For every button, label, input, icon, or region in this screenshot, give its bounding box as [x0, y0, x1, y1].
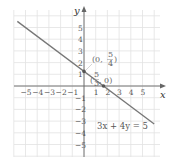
y-tick-label: −2 [75, 105, 86, 114]
leader-line [86, 64, 92, 70]
y-tick-labels: 54321−1−2−3−4−5 [75, 24, 86, 150]
graph: x y −5−4−3−2−112345 54321−1−2−3−4−5 (0, … [0, 0, 174, 165]
y-axis-label: y [73, 5, 80, 16]
x-intercept-label: ( 5 3 , 0) [90, 70, 112, 88]
x-tick-label: −3 [44, 88, 55, 97]
x-tick-label: −4 [32, 88, 43, 97]
svg-text:(0,: (0, [92, 55, 103, 64]
grid [14, 10, 160, 157]
y-tick-label: 4 [78, 35, 83, 44]
x-tick-label: −2 [56, 88, 67, 97]
x-tick-label: 5 [141, 88, 146, 97]
equation-label: 3x + 4y = 5 [97, 121, 148, 131]
x-axis-arrow-icon [160, 84, 166, 89]
y-tick-label: −3 [75, 117, 86, 126]
x-tick-label: 1 [94, 88, 99, 97]
y-tick-label: −5 [75, 141, 86, 150]
y-intercept-point [82, 70, 86, 74]
svg-text:5: 5 [108, 50, 113, 59]
x-axis-label: x [160, 89, 166, 100]
y-tick-label: −1 [75, 94, 86, 103]
y-tick-label: 3 [78, 47, 83, 56]
svg-text:, 0): , 0) [99, 76, 112, 85]
x-tick-label: 4 [129, 88, 134, 97]
svg-text:): ) [114, 55, 117, 64]
svg-text:(: ( [90, 76, 93, 85]
svg-text:4: 4 [108, 59, 113, 68]
x-tick-label: 3 [117, 88, 122, 97]
y-tick-label: 2 [78, 59, 83, 68]
y-tick-label: 1 [78, 70, 83, 79]
y-tick-label: 5 [78, 24, 83, 33]
y-axis-arrow-icon [82, 6, 87, 12]
y-tick-label: −4 [75, 129, 86, 138]
x-tick-label: −5 [21, 88, 32, 97]
